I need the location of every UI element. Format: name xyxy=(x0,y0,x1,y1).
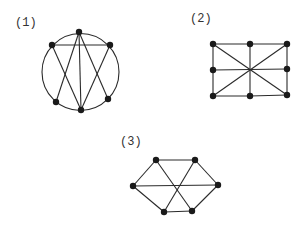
graph-vertex xyxy=(210,41,216,47)
graph-edge xyxy=(56,32,79,102)
graph-vertex xyxy=(215,182,221,188)
graph-edge xyxy=(133,186,164,212)
graph-3-label: (3) xyxy=(120,135,142,149)
graph-1-label: (1) xyxy=(15,16,37,30)
graph-edge xyxy=(133,160,156,186)
graph-edge xyxy=(164,211,192,212)
graph-edge xyxy=(133,185,218,186)
graph-vertex xyxy=(192,157,198,163)
graph-edge xyxy=(79,32,81,110)
graph-vertex xyxy=(284,92,290,98)
graph-vertex xyxy=(189,208,195,214)
graph-vertex xyxy=(76,29,82,35)
graph-figure: (1) (2) (3) xyxy=(0,0,305,229)
graph-2: (2) xyxy=(190,12,290,99)
graph-vertex xyxy=(130,183,136,189)
graph-edge xyxy=(79,32,108,99)
graph-vertex xyxy=(210,67,216,73)
graph-vertex xyxy=(284,41,290,47)
graph-vertex xyxy=(78,107,84,113)
graph-vertex xyxy=(247,41,253,47)
graph-vertex xyxy=(153,157,159,163)
graph-2-label: (2) xyxy=(190,12,212,26)
graph-vertex xyxy=(107,42,113,48)
graph-edge xyxy=(195,160,218,185)
graph-vertex xyxy=(284,66,290,72)
graph-vertex xyxy=(210,93,216,99)
graph-3: (3) xyxy=(120,135,221,215)
graph-edge xyxy=(192,185,218,211)
graph-vertex xyxy=(105,96,111,102)
graph-1: (1) xyxy=(15,16,119,113)
graph-vertex xyxy=(49,42,55,48)
graph-edge xyxy=(250,95,287,96)
graph-vertex xyxy=(161,209,167,215)
graph-vertex xyxy=(247,93,253,99)
graph-vertex xyxy=(53,99,59,105)
